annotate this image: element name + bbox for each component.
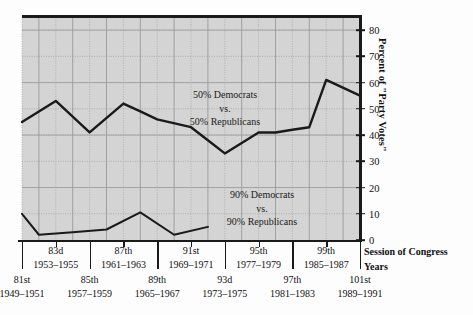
y-tick-mark-20: [356, 187, 365, 189]
x-axis-title-years: Years: [364, 261, 388, 272]
x-label-separator: [225, 241, 226, 269]
y-tick-label-0: 0: [369, 235, 374, 246]
y-tick-label-80: 80: [369, 25, 380, 36]
annotation-50-percent: 50% Democrats vs. 50% Republicans: [160, 88, 290, 129]
x-label-separator: [157, 241, 158, 269]
y-tick-mark-60: [356, 82, 365, 84]
y-tick-mark-40: [356, 134, 365, 136]
y-axis-title: Percent of "Party Votes": [377, 38, 388, 198]
axis-right-rule: [359, 15, 362, 241]
x-tick-mark: [326, 241, 327, 247]
x-label-years-99th: 1985–1987: [286, 259, 366, 270]
x-label-separator: [360, 241, 361, 269]
x-tick-mark: [259, 241, 260, 247]
y-tick-mark-50: [356, 108, 365, 110]
axis-bottom-rule: [18, 240, 362, 242]
x-tick-mark: [123, 241, 124, 247]
annotation-50-line3: 50% Republicans: [160, 115, 290, 129]
y-tick-mark-70: [356, 56, 365, 58]
x-tick-mark: [191, 241, 192, 247]
annotation-90-line3: 90% Republicans: [197, 215, 327, 229]
annotation-50-line2: vs.: [160, 102, 290, 116]
annotation-90-percent: 90% Democrats vs. 90% Republicans: [197, 188, 327, 229]
annotation-90-line2: vs.: [197, 202, 327, 216]
annotation-50-line1: 50% Democrats: [160, 88, 290, 102]
y-tick-mark-10: [356, 213, 365, 215]
annotation-90-line1: 90% Democrats: [197, 188, 327, 202]
x-label-separator: [292, 241, 293, 269]
x-axis-title-session: Session of Congress: [364, 246, 448, 257]
chart-figure: 01020304050607080 Percent of "Party Vote…: [0, 0, 473, 315]
axis-top-rule: [22, 15, 362, 18]
y-tick-mark-80: [356, 29, 365, 31]
y-tick-label-10: 10: [369, 208, 380, 219]
y-tick-mark-30: [356, 160, 365, 162]
x-label-session-101st: 101st: [320, 274, 400, 285]
x-label-separator: [22, 241, 23, 269]
x-label-years-101st: 1989–1991: [320, 288, 400, 299]
x-label-separator: [90, 241, 91, 269]
x-tick-mark: [56, 241, 57, 247]
